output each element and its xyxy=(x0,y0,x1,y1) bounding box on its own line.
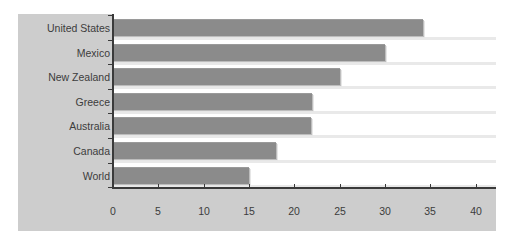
bar-gap xyxy=(113,160,496,163)
bar-gap xyxy=(113,62,496,65)
x-axis xyxy=(112,187,496,189)
bar-united-states xyxy=(113,19,423,36)
x-tick-label: 35 xyxy=(415,205,445,217)
x-tick-label: 20 xyxy=(279,205,309,217)
bar-world xyxy=(113,167,249,184)
x-tick-label: 0 xyxy=(98,205,128,217)
x-tick-mark xyxy=(204,184,205,188)
x-tick-mark xyxy=(476,184,477,188)
category-label: World xyxy=(15,170,110,182)
x-tick-mark xyxy=(294,184,295,188)
x-tick-label: 5 xyxy=(143,205,173,217)
bar-new-zealand xyxy=(113,68,340,85)
x-tick-label: 25 xyxy=(325,205,355,217)
x-tick-mark xyxy=(340,184,341,188)
category-label: Canada xyxy=(15,145,110,157)
x-tick-mark xyxy=(385,184,386,188)
bar-canada xyxy=(113,142,276,159)
category-label: Australia xyxy=(15,120,110,132)
bar-australia xyxy=(113,117,311,134)
x-tick-label: 30 xyxy=(370,205,400,217)
x-tick-mark xyxy=(430,184,431,188)
bar-gap xyxy=(113,111,496,114)
x-tick-label: 10 xyxy=(189,205,219,217)
bar-gap xyxy=(113,37,496,40)
y-axis xyxy=(112,14,114,189)
bar-greece xyxy=(113,93,312,110)
category-label: Greece xyxy=(15,96,110,108)
bar-mexico xyxy=(113,44,385,61)
x-tick-label: 40 xyxy=(461,205,491,217)
category-label: United States xyxy=(15,22,110,34)
category-label: New Zealand xyxy=(15,71,110,83)
x-tick-mark xyxy=(158,184,159,188)
category-label: Mexico xyxy=(15,47,110,59)
x-tick-mark xyxy=(249,184,250,188)
bar-gap xyxy=(113,86,496,89)
bar-gap xyxy=(113,135,496,138)
x-tick-mark xyxy=(113,184,114,188)
x-tick-label: 15 xyxy=(234,205,264,217)
